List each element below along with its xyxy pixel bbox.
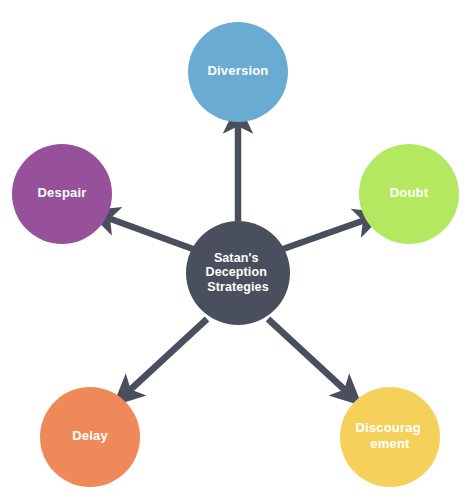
connector-doubt [283, 220, 365, 249]
node-delay[interactable]: Delay [40, 387, 140, 487]
center-node-label: Satan's Deception Strategies [206, 251, 271, 294]
node-diversion-label: Diversion [207, 63, 268, 78]
connector-delay [129, 319, 207, 391]
node-delay-label: Delay [72, 428, 108, 443]
node-discouragement[interactable]: Discourag ement [340, 387, 440, 487]
node-doubt[interactable]: Doubt [359, 144, 459, 244]
node-discouragement-label-line2: ement [370, 436, 410, 451]
node-discouragement-label-line1: Discourag [355, 420, 420, 435]
node-despair[interactable]: Despair [12, 144, 112, 244]
node-doubt-label: Doubt [390, 185, 429, 200]
connector-discouragement [268, 319, 346, 391]
center-node-label-line1: Satan's [214, 251, 259, 265]
node-diversion[interactable]: Diversion [188, 22, 288, 122]
center-node[interactable]: Satan's Deception Strategies [186, 221, 290, 325]
connector-despair [108, 218, 193, 249]
node-despair-label: Despair [37, 185, 86, 200]
center-node-label-line3: Strategies [207, 280, 268, 294]
radial-diagram: Diversion Doubt Despair Delay Discourag … [0, 0, 470, 502]
center-node-label-line2: Deception [206, 265, 267, 279]
diagram-canvas: Diversion Doubt Despair Delay Discourag … [0, 0, 470, 502]
